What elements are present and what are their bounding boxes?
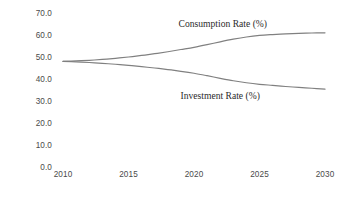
x-axis-tick-label: 2010 <box>54 170 73 179</box>
x-axis-tick-label: 2020 <box>185 170 204 179</box>
x-axis-tick-label: 2015 <box>119 170 138 179</box>
x-axis: 20102015202020252030 <box>0 0 344 199</box>
x-axis-tick-label: 2030 <box>316 170 335 179</box>
series-label-consumption-rate: Consumption Rate (%) <box>179 18 267 29</box>
x-axis-tick-label: 2025 <box>250 170 269 179</box>
line-chart: 70.060.050.040.030.020.010.00.0 20102015… <box>0 0 344 199</box>
series-label-investment-rate: Investment Rate (%) <box>180 90 259 101</box>
